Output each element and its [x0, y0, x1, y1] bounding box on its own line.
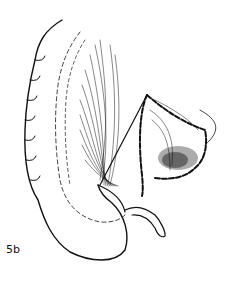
cecum-outline — [98, 185, 125, 212]
figure-label: 5b — [6, 243, 20, 256]
appendix — [125, 207, 165, 236]
outer-arc — [200, 110, 216, 145]
colon-mesentery-illustration — [0, 0, 233, 281]
tumor-stipple — [158, 146, 198, 170]
resection-margin-dashed — [140, 95, 147, 196]
haustra-marks — [25, 56, 45, 181]
inner-colon-line — [65, 40, 85, 185]
mesentery-vessels — [80, 40, 119, 186]
